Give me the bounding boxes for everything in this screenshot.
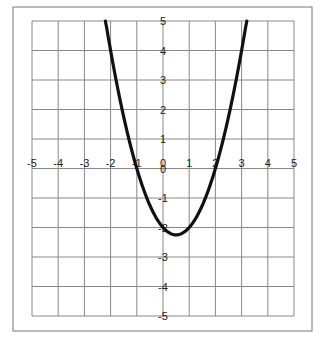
y-tick-label: 1: [160, 133, 166, 145]
y-tick-label: -3: [158, 251, 168, 263]
parabola-curve: [105, 21, 246, 235]
y-tick-label: -4: [158, 281, 168, 293]
y-tick-label: -1: [158, 192, 168, 204]
y-tick-label: 3: [160, 74, 166, 86]
y-tick-label: 2: [160, 104, 166, 116]
x-tick-label: 1: [186, 157, 192, 169]
x-tick-label: -3: [80, 157, 90, 169]
y-tick-label: -5: [158, 310, 168, 322]
x-tick-label: 5: [291, 157, 297, 169]
x-tick-label: -5: [27, 157, 37, 169]
parabola-chart: -5-4-3-2-1012345 543210-1-2-3-4-5: [0, 0, 321, 337]
x-tick-label: -2: [106, 157, 116, 169]
x-tick-label: 4: [265, 157, 271, 169]
y-tick-label: 5: [160, 15, 166, 27]
y-tick-label: 4: [160, 45, 166, 57]
y-tick-label: 0: [160, 163, 166, 175]
x-tick-label: 3: [239, 157, 245, 169]
x-tick-label: -4: [53, 157, 63, 169]
